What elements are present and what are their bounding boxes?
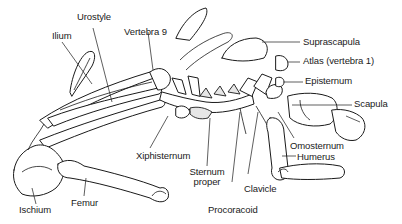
label-femur: Femur xyxy=(71,198,98,208)
pelvis-shafts xyxy=(40,71,165,148)
label-urostyle: Urostyle xyxy=(77,12,111,22)
label-vertebra9: Vertebra 9 xyxy=(124,27,167,37)
label-ilium: Ilium xyxy=(52,31,72,41)
label-atlas: Atlas (vertebra 1) xyxy=(303,56,374,66)
label-ischium: Ischium xyxy=(19,205,51,215)
label-sternum-line2: proper xyxy=(194,176,221,187)
label-sternum-proper: Sternum proper xyxy=(187,167,227,187)
femur-bone xyxy=(58,160,169,201)
frog-skeleton-diagram: Urostyle Ilium Vertebra 9 Suprascapula A… xyxy=(0,0,402,224)
label-xiphisternum: Xiphisternum xyxy=(136,151,190,161)
leader-sternum xyxy=(207,118,210,166)
pectoral-girdle xyxy=(240,93,365,140)
label-episternum: Episternum xyxy=(305,76,352,86)
label-clavicle: Clavicle xyxy=(244,184,276,194)
label-omosternum: Omosternum xyxy=(290,141,344,151)
leader-clavicle xyxy=(248,112,258,174)
leader-xiphisternum xyxy=(150,116,168,148)
label-procoracoid: Procoracoid xyxy=(208,205,258,215)
label-humerus: Humerus xyxy=(297,152,335,162)
vertebral-column xyxy=(150,8,282,113)
label-scapula: Scapula xyxy=(354,99,388,109)
label-suprascapula: Suprascapula xyxy=(303,37,360,47)
leader-procoracoid xyxy=(232,112,240,182)
leader-vertebra9 xyxy=(148,32,153,70)
